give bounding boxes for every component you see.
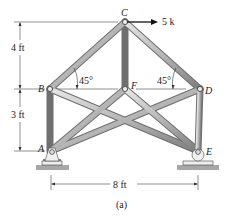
dimension-label-lower: 3 ft — [11, 109, 25, 120]
node-label-A: A — [37, 143, 45, 154]
dimension-label-span: 8 ft — [113, 179, 127, 190]
truss-diagram: C B F D A E 5 k 45° 45° 4 ft 3 ft 8 ft (… — [0, 0, 230, 219]
joint-B — [47, 86, 52, 91]
joint-D — [197, 86, 202, 91]
figure-caption: (a) — [116, 199, 127, 211]
angle-label-right: 45° — [157, 75, 171, 86]
member-EF — [125, 89, 198, 151]
load-label: 5 k — [162, 16, 175, 27]
roller-support-E — [177, 149, 219, 170]
member-DE — [198, 89, 200, 151]
node-label-C: C — [121, 7, 128, 18]
node-label-D: D — [204, 85, 213, 96]
dimension-label-upper: 4 ft — [11, 42, 25, 53]
node-label-E: E — [205, 146, 212, 157]
node-label-B: B — [38, 83, 44, 94]
node-label-F: F — [130, 80, 138, 91]
angle-label-left: 45° — [79, 75, 93, 86]
member-AF — [51, 89, 125, 151]
joint-C — [122, 19, 127, 24]
joint-F — [122, 86, 127, 91]
